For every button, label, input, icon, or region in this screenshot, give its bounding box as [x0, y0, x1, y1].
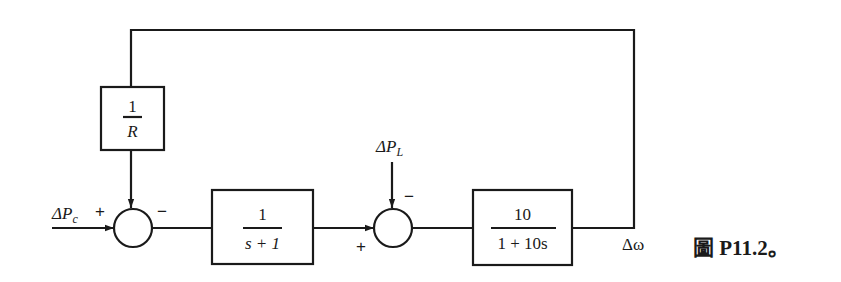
output-label: Δω [622, 235, 644, 254]
plant-denominator: 1 + 10s [497, 234, 547, 253]
block-diagram: 1 R ΔPc + − 1 s + 1 + ΔPL − 10 1 + 10s Δ… [0, 0, 841, 282]
plant-block: 10 1 + 10s [473, 190, 572, 265]
droop-numerator: 1 [128, 97, 137, 116]
sum1-plus-sign: + [95, 202, 105, 221]
load-input-label: ΔPL [375, 137, 403, 159]
governor-denominator: s + 1 [245, 234, 280, 253]
sum1-minus-sign: − [157, 202, 167, 221]
sum2-minus-sign: − [404, 187, 414, 206]
summing-junction-2 [374, 209, 412, 247]
summing-junction-1 [114, 209, 152, 247]
reference-input-label: ΔPc [51, 204, 78, 226]
droop-denominator: R [126, 122, 138, 141]
governor-numerator: 1 [258, 205, 267, 224]
figure-caption: 圖 P11.2。 [693, 236, 789, 260]
governor-block: 1 s + 1 [212, 190, 313, 264]
sum2-plus-sign: + [356, 237, 366, 256]
droop-block: 1 R [101, 87, 164, 150]
plant-numerator: 10 [514, 205, 531, 224]
